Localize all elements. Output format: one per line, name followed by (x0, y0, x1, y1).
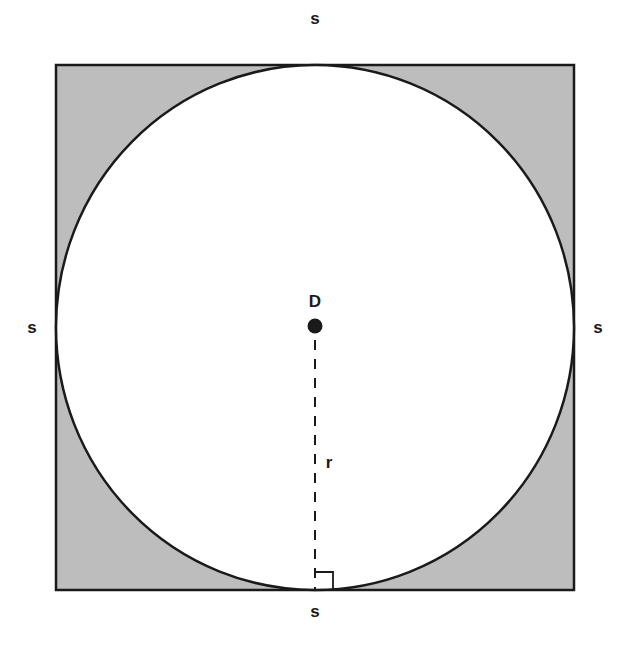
label-side-left: s (27, 318, 36, 337)
center-point-d (308, 319, 323, 334)
label-radius-r: r (326, 453, 333, 472)
label-center-d: D (309, 292, 321, 311)
label-side-right: s (593, 318, 602, 337)
label-side-top: s (310, 9, 319, 28)
inscribed-circle-diagram: s s s s D r (0, 0, 622, 658)
label-side-bottom: s (310, 602, 319, 621)
